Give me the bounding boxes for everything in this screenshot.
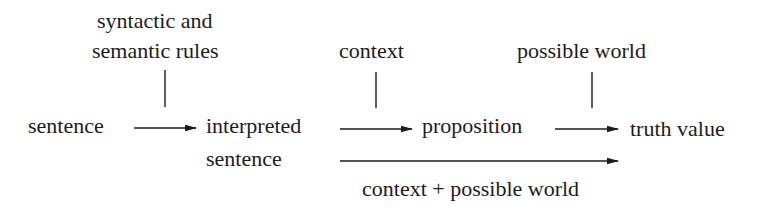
semantics-flow-diagram: syntactic and semantic rules context pos… (0, 0, 763, 221)
connectors (0, 0, 763, 221)
